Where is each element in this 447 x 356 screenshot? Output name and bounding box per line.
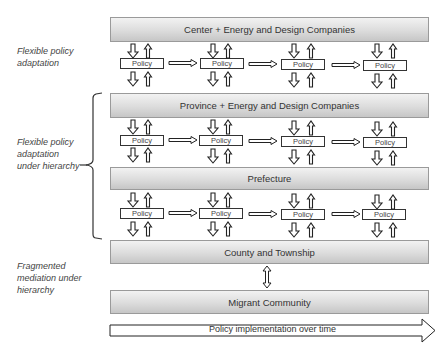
timeline-label: Policy implementation over time (110, 324, 435, 334)
right-arrows-row2 (169, 137, 360, 146)
diagram-arrows (0, 0, 447, 356)
right-arrows-row1 (169, 60, 360, 69)
double-arrow-icon (263, 266, 271, 288)
right-arrows-row3 (169, 210, 360, 218)
curly-brace-icon (86, 93, 102, 239)
